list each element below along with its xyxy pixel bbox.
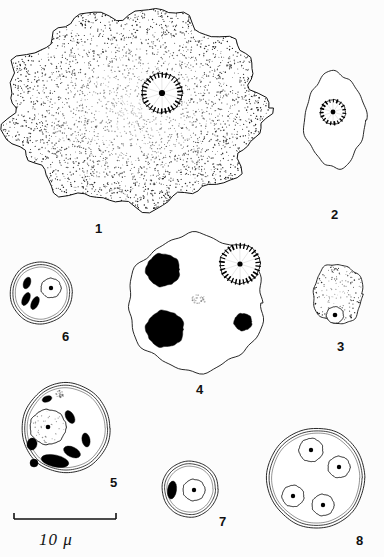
stipple-dot	[187, 77, 188, 78]
stipple-dot	[232, 100, 233, 101]
stipple-dot	[82, 133, 83, 134]
stipple-dot	[111, 198, 112, 199]
stipple-dot	[50, 34, 51, 35]
stipple-dot	[56, 71, 57, 72]
stipple-dot	[257, 103, 258, 104]
stipple-dot	[64, 46, 65, 47]
stipple-dot	[135, 182, 136, 183]
stipple-dot	[62, 55, 63, 56]
stipple-dot	[188, 57, 189, 58]
stipple-dot	[163, 157, 165, 159]
stipple-dot	[127, 13, 128, 14]
stipple-dot	[139, 58, 140, 59]
stipple-dot	[184, 55, 185, 56]
stipple-dot	[183, 160, 184, 161]
stipple-dot	[122, 8, 123, 9]
stipple-dot	[67, 174, 68, 175]
stipple-dot	[261, 133, 262, 134]
stipple-dot	[345, 317, 346, 318]
stipple-dot	[245, 95, 246, 96]
stipple-dot	[236, 137, 237, 138]
stipple-dot	[60, 111, 61, 112]
stipple-dot	[211, 105, 212, 106]
stipple-dot	[131, 111, 132, 112]
stipple-dot	[135, 21, 136, 22]
stipple-dot	[156, 54, 157, 55]
stipple-dot	[128, 161, 129, 162]
stipple-dot	[5, 103, 6, 104]
stipple-dot	[42, 172, 43, 173]
stipple-dot	[80, 152, 81, 153]
stipple-dot	[66, 157, 67, 158]
stipple-dot	[42, 131, 43, 132]
stipple-dot	[16, 70, 17, 71]
stipple-dot	[57, 170, 59, 172]
stipple-dot	[101, 16, 103, 18]
stipple-dot	[157, 49, 158, 50]
stipple-dot	[199, 123, 200, 124]
stipple-dot	[82, 168, 83, 169]
stipple-dot	[193, 56, 194, 57]
stipple-dot	[22, 143, 23, 144]
stipple-dot	[213, 76, 214, 77]
stipple-dot	[99, 57, 100, 58]
stipple-dot	[17, 66, 18, 67]
stipple-dot	[67, 125, 68, 126]
stipple-dot	[117, 79, 118, 80]
stipple-dot	[91, 203, 92, 204]
stipple-dot	[95, 110, 96, 111]
stipple-dot	[58, 99, 60, 101]
stipple-dot	[86, 53, 87, 54]
stipple-dot	[97, 30, 98, 31]
karyosome	[321, 503, 325, 507]
stipple-dot	[34, 114, 35, 115]
stipple-dot	[174, 196, 175, 197]
stipple-dot	[177, 184, 178, 185]
stipple-dot	[237, 101, 239, 103]
stipple-dot	[159, 145, 160, 146]
stipple-dot	[104, 164, 106, 166]
stipple-dot	[104, 186, 105, 187]
peripheral-chromatin-granule	[243, 280, 244, 284]
stipple-dot	[82, 192, 83, 193]
stipple-dot	[161, 15, 162, 16]
stipple-dot	[88, 138, 89, 139]
stipple-dot	[350, 277, 351, 278]
stipple-dot	[72, 61, 73, 62]
stipple-dot	[217, 129, 218, 130]
stipple-dot	[265, 82, 266, 83]
stipple-dot	[104, 97, 106, 99]
stipple-dot	[86, 179, 87, 180]
stipple-dot	[122, 116, 123, 117]
stipple-dot	[334, 268, 335, 269]
stipple-dot	[29, 91, 30, 92]
stipple-dot	[102, 51, 103, 52]
stipple-dot	[148, 39, 149, 40]
stipple-dot	[89, 131, 90, 132]
stipple-dot	[247, 69, 248, 70]
stipple-dot	[131, 51, 132, 52]
stipple-dot	[53, 72, 54, 73]
stipple-dot	[125, 210, 126, 211]
stipple-dot	[143, 119, 145, 121]
stipple-dot	[232, 48, 233, 49]
stipple-dot	[252, 143, 253, 144]
stipple-dot	[110, 61, 112, 63]
stipple-dot	[116, 58, 117, 59]
stipple-dot	[31, 42, 32, 43]
stipple-dot	[330, 288, 331, 289]
stipple-dot	[208, 100, 209, 101]
stipple-dot	[23, 100, 24, 101]
stipple-dot	[176, 141, 177, 142]
stipple-dot	[168, 26, 169, 27]
stipple-dot	[89, 176, 90, 177]
stipple-dot	[107, 38, 108, 39]
stipple-dot	[214, 178, 215, 179]
stipple-dot	[184, 102, 185, 103]
stipple-dot	[35, 49, 36, 50]
stipple-dot	[101, 29, 102, 30]
figure-label-3: 3	[337, 340, 344, 353]
stipple-dot	[35, 103, 36, 104]
stipple-dot	[117, 129, 118, 130]
stipple-dot	[184, 139, 185, 140]
